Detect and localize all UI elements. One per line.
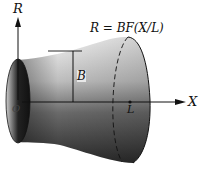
x-axis-label: X — [188, 95, 197, 108]
l-label: L — [127, 104, 134, 115]
formula-label: R = BF(X/L) — [90, 22, 164, 34]
r-axis-label: R — [13, 2, 23, 15]
origin-label: O — [12, 104, 20, 114]
b-label: B — [77, 70, 86, 82]
horn-body — [18, 37, 150, 163]
